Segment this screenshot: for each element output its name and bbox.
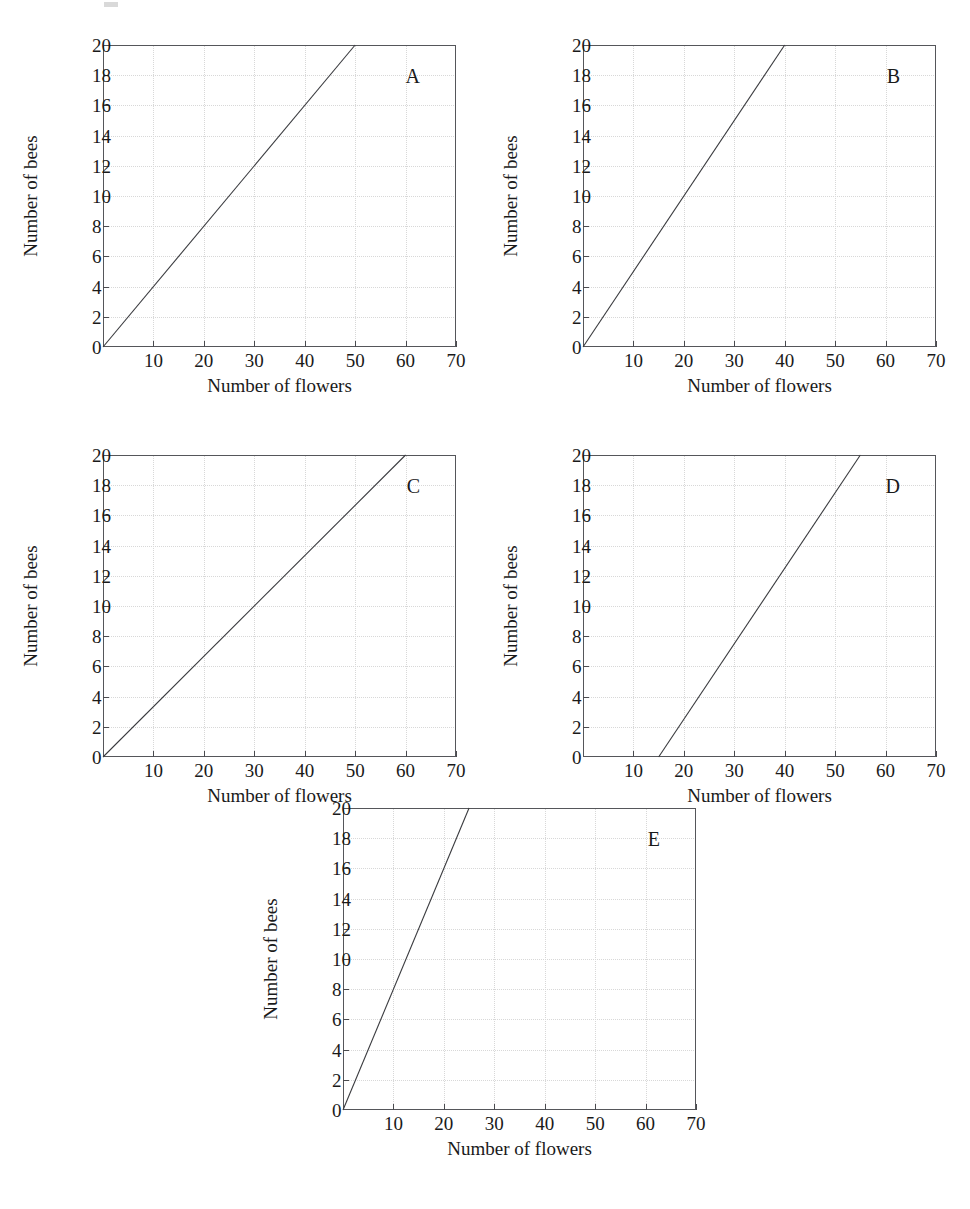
y-tick-label: 4 bbox=[572, 687, 582, 706]
panel-letter-d: D bbox=[886, 476, 900, 496]
scan-artifact bbox=[104, 2, 118, 7]
plot-area-b: 1020304050607002468101214161820B bbox=[583, 45, 936, 347]
x-tick-label: 60 bbox=[636, 1114, 655, 1133]
y-tick-label: 6 bbox=[92, 657, 102, 676]
x-tick-label: 20 bbox=[674, 761, 693, 780]
x-tick-mark bbox=[456, 341, 457, 347]
panel-letter-c: C bbox=[407, 476, 420, 496]
chart-panel-e: 1020304050607002468101214161820ENumber o… bbox=[343, 808, 696, 1110]
x-tick-label: 30 bbox=[245, 761, 264, 780]
x-tick-label: 60 bbox=[396, 351, 415, 370]
data-line-d bbox=[583, 455, 936, 757]
x-tick-label: 50 bbox=[346, 761, 365, 780]
y-axis-title: Number of bees bbox=[260, 898, 282, 1019]
chart-panel-a: 1020304050607002468101214161820ANumber o… bbox=[103, 45, 456, 347]
y-tick-label: 0 bbox=[92, 338, 102, 357]
chart-panel-d: 1020304050607002468101214161820DNumber o… bbox=[583, 455, 936, 757]
x-axis-title: Number of flowers bbox=[687, 785, 832, 807]
y-tick-label: 0 bbox=[572, 338, 582, 357]
x-tick-label: 40 bbox=[295, 351, 314, 370]
y-tick-label: 4 bbox=[92, 687, 102, 706]
x-axis-title: Number of flowers bbox=[207, 785, 352, 807]
x-tick-mark bbox=[456, 751, 457, 757]
y-axis-title: Number of bees bbox=[20, 545, 42, 666]
x-tick-label: 70 bbox=[927, 761, 946, 780]
plot-area-a: 1020304050607002468101214161820A bbox=[103, 45, 456, 347]
panel-letter-e: E bbox=[648, 829, 660, 849]
y-tick-label: 2 bbox=[332, 1070, 342, 1089]
y-tick-label: 6 bbox=[92, 247, 102, 266]
x-axis-title: Number of flowers bbox=[687, 375, 832, 397]
x-tick-label: 50 bbox=[826, 761, 845, 780]
x-tick-label: 70 bbox=[447, 351, 466, 370]
x-tick-label: 50 bbox=[586, 1114, 605, 1133]
x-tick-label: 10 bbox=[624, 351, 643, 370]
x-axis-title: Number of flowers bbox=[447, 1138, 592, 1160]
x-tick-label: 50 bbox=[826, 351, 845, 370]
y-tick-label: 8 bbox=[332, 980, 342, 999]
x-tick-label: 20 bbox=[674, 351, 693, 370]
data-line-c bbox=[103, 455, 456, 757]
y-tick-label: 2 bbox=[92, 307, 102, 326]
x-tick-label: 40 bbox=[775, 351, 794, 370]
data-line-b bbox=[583, 45, 936, 347]
x-tick-label: 40 bbox=[295, 761, 314, 780]
y-axis-title: Number of bees bbox=[20, 135, 42, 256]
x-tick-label: 70 bbox=[447, 761, 466, 780]
plot-area-c: 1020304050607002468101214161820C bbox=[103, 455, 456, 757]
y-tick-label: 8 bbox=[572, 627, 582, 646]
x-tick-label: 70 bbox=[927, 351, 946, 370]
x-tick-label: 20 bbox=[194, 351, 213, 370]
y-axis-title: Number of bees bbox=[500, 135, 522, 256]
y-tick-label: 6 bbox=[572, 247, 582, 266]
x-tick-mark bbox=[696, 1104, 697, 1110]
y-tick-label: 4 bbox=[332, 1040, 342, 1059]
x-tick-label: 20 bbox=[194, 761, 213, 780]
plot-area-d: 1020304050607002468101214161820D bbox=[583, 455, 936, 757]
chart-panel-c: 1020304050607002468101214161820CNumber o… bbox=[103, 455, 456, 757]
y-axis-title: Number of bees bbox=[500, 545, 522, 666]
data-line-a bbox=[103, 45, 456, 347]
x-tick-label: 10 bbox=[144, 761, 163, 780]
x-tick-label: 10 bbox=[144, 351, 163, 370]
x-tick-label: 30 bbox=[485, 1114, 504, 1133]
y-tick-label: 8 bbox=[572, 217, 582, 236]
y-tick-label: 0 bbox=[572, 748, 582, 767]
x-tick-label: 30 bbox=[725, 761, 744, 780]
plot-area-e: 1020304050607002468101214161820E bbox=[343, 808, 696, 1110]
x-tick-label: 60 bbox=[876, 761, 895, 780]
y-tick-label: 2 bbox=[572, 307, 582, 326]
x-tick-label: 10 bbox=[624, 761, 643, 780]
x-tick-label: 20 bbox=[434, 1114, 453, 1133]
y-tick-label: 8 bbox=[92, 217, 102, 236]
x-tick-label: 40 bbox=[775, 761, 794, 780]
x-tick-label: 60 bbox=[396, 761, 415, 780]
x-tick-label: 30 bbox=[725, 351, 744, 370]
x-tick-label: 70 bbox=[687, 1114, 706, 1133]
x-tick-label: 50 bbox=[346, 351, 365, 370]
x-tick-mark bbox=[936, 341, 937, 347]
y-tick-label: 0 bbox=[332, 1101, 342, 1120]
y-tick-label: 2 bbox=[92, 717, 102, 736]
chart-panel-b: 1020304050607002468101214161820BNumber o… bbox=[583, 45, 936, 347]
panel-letter-a: A bbox=[406, 66, 420, 86]
y-tick-label: 8 bbox=[92, 627, 102, 646]
x-tick-label: 10 bbox=[384, 1114, 403, 1133]
data-line-e bbox=[343, 808, 696, 1110]
x-axis-title: Number of flowers bbox=[207, 375, 352, 397]
y-tick-label: 2 bbox=[572, 717, 582, 736]
y-tick-label: 4 bbox=[92, 277, 102, 296]
y-tick-label: 6 bbox=[572, 657, 582, 676]
y-tick-label: 6 bbox=[332, 1010, 342, 1029]
y-tick-label: 0 bbox=[92, 748, 102, 767]
x-tick-label: 60 bbox=[876, 351, 895, 370]
x-tick-label: 40 bbox=[535, 1114, 554, 1133]
panel-letter-b: B bbox=[887, 66, 900, 86]
y-tick-label: 4 bbox=[572, 277, 582, 296]
x-tick-mark bbox=[936, 751, 937, 757]
x-tick-label: 30 bbox=[245, 351, 264, 370]
